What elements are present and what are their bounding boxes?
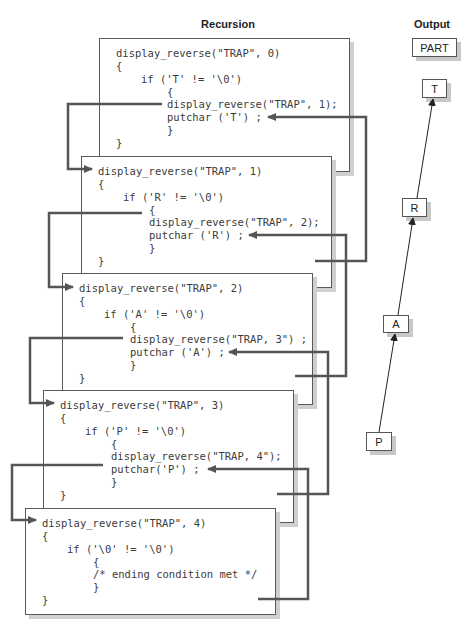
- code-line: putchar ('R') ;: [98, 229, 320, 242]
- recursion-frame-3: display_reverse("TRAP", 3) { if ('P' != …: [43, 390, 294, 523]
- code-line: putchar ('A') ;: [79, 346, 307, 359]
- output-char-p: P: [366, 432, 392, 451]
- code-line: {: [60, 438, 282, 451]
- output-char-t: T: [422, 79, 447, 98]
- code-line: putchar('P') ;: [60, 463, 282, 476]
- code-line: }: [60, 489, 282, 502]
- code-line: {: [98, 204, 320, 217]
- code-line: display_reverse("TRAP, 4");: [60, 450, 282, 463]
- code-line: {: [79, 295, 307, 308]
- code-line: {: [60, 412, 282, 425]
- code-line: }: [98, 255, 320, 268]
- code-block: display_reverse("TRAP", 3) { if ('P' != …: [60, 399, 282, 502]
- code-line: {: [98, 178, 320, 191]
- code-line: }: [79, 372, 307, 385]
- code-block: display_reverse("TRAP", 0) { if ('T' != …: [116, 47, 338, 150]
- recursion-frame-1: display_reverse("TRAP", 1) { if ('R' != …: [81, 156, 332, 288]
- code-line: if ('\0' != '\0'): [42, 543, 257, 556]
- code-block: display_reverse("TRAP", 2) { if ('A' != …: [79, 282, 307, 385]
- code-line: if ('A' != '\0'): [79, 308, 307, 321]
- code-block: display_reverse("TRAP", 4) { if ('\0' !=…: [42, 517, 257, 607]
- code-line: }: [42, 581, 257, 594]
- code-line: putchar ('T') ;: [116, 111, 338, 124]
- recursion-frame-0: display_reverse("TRAP", 0) { if ('T' != …: [99, 38, 350, 172]
- code-line: {: [79, 321, 307, 334]
- recursion-title: Recursion: [178, 18, 278, 30]
- recursion-frame-4: display_reverse("TRAP", 4) { if ('\0' !=…: [25, 508, 276, 615]
- output-arrow-a-to-r: [398, 218, 413, 315]
- code-line: }: [79, 359, 307, 372]
- code-line: display_reverse("TRAP, 3") ;: [79, 333, 307, 346]
- code-line: }: [42, 594, 257, 607]
- code-block: display_reverse("TRAP", 1) { if ('R' != …: [98, 165, 320, 268]
- code-line: display_reverse("TRAP", 4): [42, 517, 257, 530]
- code-line: if ('R' != '\0'): [98, 191, 320, 204]
- code-line: display_reverse("TRAP", 2): [79, 282, 307, 295]
- code-line: }: [116, 124, 338, 137]
- code-line: }: [98, 242, 320, 255]
- code-line: {: [116, 86, 338, 99]
- code-line: display_reverse("TRAP", 2);: [98, 216, 320, 229]
- code-line: display_reverse("TRAP", 0): [116, 47, 338, 60]
- code-line: {: [116, 60, 338, 73]
- code-line: }: [116, 137, 338, 150]
- recursion-frame-2: display_reverse("TRAP", 2) { if ('A' != …: [62, 273, 313, 405]
- code-line: {: [42, 556, 257, 569]
- output-arrow-p-to-a: [379, 334, 395, 432]
- output-char-a: A: [383, 315, 409, 333]
- output-char-r: R: [402, 198, 427, 217]
- code-line: display_reverse("TRAP", 3): [60, 399, 282, 412]
- code-line: }: [60, 476, 282, 489]
- code-line: if ('T' != '\0'): [116, 73, 338, 86]
- code-line: {: [42, 530, 257, 543]
- output-title: Output: [402, 18, 462, 30]
- output-result-box: PART: [412, 38, 457, 57]
- code-line: if ('P' != '\0'): [60, 425, 282, 438]
- code-line: /* ending condition met */: [42, 568, 257, 581]
- code-line: display_reverse("TRAP", 1): [98, 165, 320, 178]
- code-line: display_reverse("TRAP", 1);: [116, 98, 338, 111]
- output-arrow-r-to-t: [417, 99, 433, 198]
